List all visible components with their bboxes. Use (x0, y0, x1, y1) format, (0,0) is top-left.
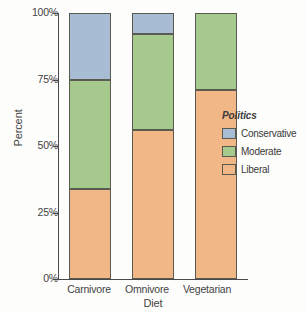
stacked-bar-chart: Percent 100% 75% 50% 25% 0% Carnivore Om… (0, 0, 306, 312)
bar-omnivore[interactable] (132, 13, 174, 279)
plot-area (58, 13, 248, 279)
y-tick-100: 100% (0, 7, 58, 19)
legend-item-moderate[interactable]: Moderate (222, 144, 306, 159)
legend-label-conservative: Conservative (241, 128, 296, 139)
x-axis-title: Diet (58, 297, 248, 309)
bar-segment-omnivore-moderate[interactable] (132, 34, 174, 130)
bar-carnivore[interactable] (69, 13, 111, 279)
x-tick-label-omnivore: Omnivore (116, 283, 178, 295)
legend-item-liberal[interactable]: Liberal (222, 162, 306, 177)
y-axis-title: Percent (12, 88, 24, 168)
legend-title: Politics (222, 110, 306, 121)
legend-item-conservative[interactable]: Conservative (222, 126, 306, 141)
legend-swatch-conservative (222, 128, 236, 139)
y-tick-25: 25% (0, 207, 58, 219)
y-tick-0: 0% (0, 273, 58, 285)
x-tick-label-vegetarian: Vegetarian (174, 283, 240, 295)
y-tick-75: 75% (0, 74, 58, 86)
legend-swatch-liberal (222, 164, 236, 175)
legend-label-moderate: Moderate (241, 146, 281, 157)
bar-segment-carnivore-conservative[interactable] (69, 13, 111, 80)
bar-segment-carnivore-moderate[interactable] (69, 80, 111, 189)
legend: Politics Conservative Moderate Liberal (222, 110, 306, 180)
x-tick-label-carnivore: Carnivore (58, 283, 120, 295)
bar-segment-omnivore-conservative[interactable] (132, 13, 174, 34)
legend-swatch-moderate (222, 146, 236, 157)
legend-label-liberal: Liberal (241, 164, 269, 175)
y-tick-50: 50% (0, 140, 58, 152)
bar-segment-omnivore-liberal[interactable] (132, 130, 174, 279)
bar-segment-vegetarian-moderate[interactable] (195, 13, 237, 90)
x-axis-line (58, 279, 248, 280)
bar-segment-carnivore-liberal[interactable] (69, 189, 111, 279)
